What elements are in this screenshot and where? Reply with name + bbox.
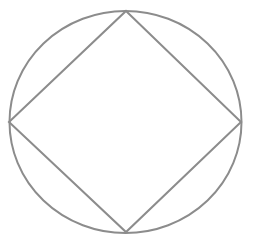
diagram-canvas [0,0,258,237]
inscribed-square-figure [0,0,258,237]
circumscribed-circle [10,11,242,233]
